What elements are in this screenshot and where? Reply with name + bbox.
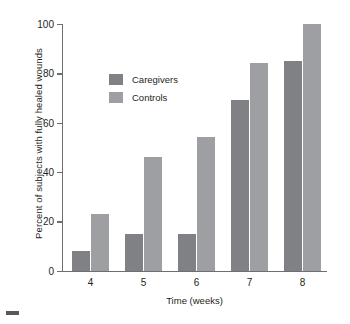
bar-group-week-7: [231, 24, 269, 271]
bar-caregivers-week-8: [284, 61, 303, 271]
bar-caregivers-week-5: [125, 234, 144, 271]
y-tick-mark: [57, 271, 62, 272]
y-tick-mark: [57, 24, 62, 25]
x-axis-line: [62, 271, 327, 272]
bar-controls-week-6: [197, 137, 216, 270]
y-tick-mark: [57, 221, 62, 222]
x-tick-label-6: 6: [194, 277, 200, 288]
y-axis-line: [62, 24, 63, 272]
bar-group-week-4: [72, 24, 110, 271]
legend-swatch-controls: [109, 92, 123, 103]
corner-mark-icon: [6, 311, 19, 315]
x-axis-title: Time (weeks): [62, 295, 327, 306]
bar-chart-figure: Percent of subjects with fully healed wo…: [0, 0, 350, 324]
bar-caregivers-week-6: [178, 234, 197, 271]
bar-group-week-5: [125, 24, 163, 271]
legend-label: Controls: [132, 92, 167, 103]
bar-caregivers-week-7: [231, 100, 250, 270]
x-tick-label-8: 8: [300, 277, 306, 288]
y-axis-title: Percent of subjects with fully healed wo…: [33, 14, 44, 274]
legend-item-controls: Controls: [109, 88, 178, 106]
plot-area: 020406080100 45678: [62, 24, 327, 272]
legend-item-caregivers: Caregivers: [109, 70, 178, 88]
y-tick-label: 100: [37, 19, 54, 30]
y-tick-label: 20: [43, 216, 54, 227]
y-tick-mark: [57, 172, 62, 173]
bar-caregivers-week-4: [72, 251, 91, 271]
legend: CaregiversControls: [109, 70, 178, 106]
x-tick-label-4: 4: [88, 277, 94, 288]
bar-controls-week-8: [303, 24, 322, 271]
bar-controls-week-4: [91, 214, 110, 271]
y-tick-mark: [57, 123, 62, 124]
bar-controls-week-5: [144, 157, 163, 270]
y-tick-mark: [57, 73, 62, 74]
y-tick-label: 0: [48, 265, 54, 276]
bar-group-week-6: [178, 24, 216, 271]
bar-controls-week-7: [250, 63, 269, 270]
x-tick-label-7: 7: [247, 277, 253, 288]
y-tick-label: 40: [43, 166, 54, 177]
legend-label: Caregivers: [132, 74, 178, 85]
y-tick-label: 60: [43, 117, 54, 128]
x-tick-label-5: 5: [141, 277, 147, 288]
bar-group-week-8: [284, 24, 322, 271]
legend-swatch-caregivers: [109, 74, 123, 85]
y-tick-label: 80: [43, 68, 54, 79]
